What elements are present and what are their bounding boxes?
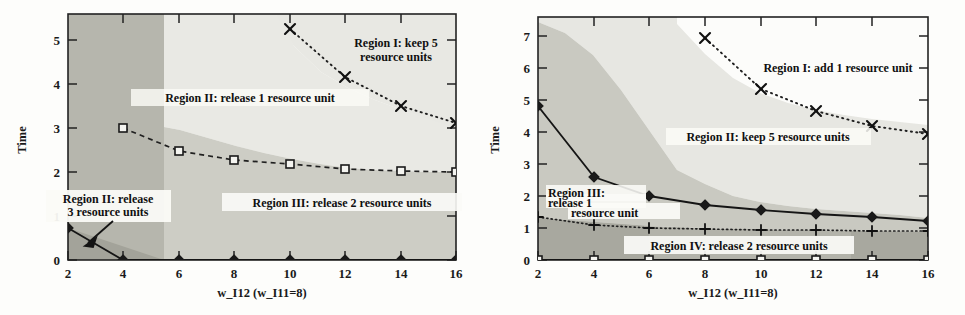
- x-tick-label: 16: [922, 266, 936, 281]
- y-tick-label: 5: [524, 93, 531, 108]
- y-tick-label: 4: [54, 77, 61, 92]
- region-2-label-line-1: Region II: keep 5 resource units: [686, 130, 850, 144]
- region-2b-label-line-1: Region II: release: [63, 192, 154, 206]
- region-2b-label-left: Region II: release 3 resource units: [46, 190, 171, 222]
- region-3-label-line-1: Region III: release 2 resource units: [253, 196, 432, 210]
- region-2b-label-line-2: 3 resource units: [68, 205, 149, 219]
- region-2-label-right: Region II: keep 5 resource units: [666, 128, 871, 145]
- y-tick-label: 2: [54, 165, 61, 180]
- y-tick-label: 1: [524, 221, 531, 236]
- y-tick-label: 3: [524, 157, 531, 172]
- figure-page: 0 1 2 3 4 5 2 4 6 8 10 12: [0, 0, 965, 315]
- region-4-label-right: Region IV: release 2 resource units: [624, 236, 854, 254]
- x-axis-title-right: w_I12 (w_I11=8): [688, 286, 777, 300]
- region-4-label-line-1: Region IV: release 2 resource units: [650, 239, 828, 253]
- x-tick-label: 16: [450, 266, 464, 281]
- x-tick-label: 12: [339, 266, 352, 281]
- y-tick-label: 6: [524, 61, 531, 76]
- region-2-label-line-1: Region II: release 1 resource unit: [165, 91, 335, 105]
- y-axis-title-right: Time: [488, 126, 502, 154]
- x-tick-label: 10: [284, 266, 297, 281]
- x-tick-label: 14: [395, 266, 409, 281]
- x-tick-label: 4: [120, 266, 127, 281]
- region-1-label-right: Region I: add 1 resource unit: [763, 61, 912, 75]
- y-tick-label: 0: [524, 253, 531, 268]
- y-tick-label: 0: [54, 253, 61, 268]
- x-tick-label: 8: [702, 266, 709, 281]
- x-tick-label: 12: [810, 266, 823, 281]
- x-tick-label: 4: [591, 266, 598, 281]
- chart-panel-left: 0 1 2 3 4 5 2 4 6 8 10 12: [0, 0, 483, 315]
- region-3-label-left: Region III: release 2 resource units: [222, 193, 462, 211]
- chart-panel-right: 0 1 2 3 4 5 6 7 2 4 6: [483, 0, 965, 315]
- x-tick-label: 8: [231, 266, 238, 281]
- y-tick-label: 2: [524, 189, 531, 204]
- chart-svg-left: 0 1 2 3 4 5 2 4 6 8 10 12: [0, 0, 483, 315]
- y-tick-label: 7: [524, 29, 531, 44]
- region-3-label-line-3: resource unit: [571, 206, 638, 220]
- region-2b-fill: [68, 14, 164, 260]
- region-1-label-line-2: resource units: [360, 50, 432, 64]
- region-1-label-left: Region I: keep 5 resource units: [354, 36, 438, 64]
- x-axis-title-left: w_I12 (w_I11=8): [217, 286, 306, 300]
- chart-svg-right: 0 1 2 3 4 5 6 7 2 4 6: [483, 0, 965, 315]
- region-1-label-line-1: Region I: add 1 resource unit: [763, 61, 912, 75]
- y-tick-label: 4: [524, 125, 531, 140]
- x-tick-label: 10: [755, 266, 768, 281]
- region-2-label-left: Region II: release 1 resource unit: [131, 89, 369, 106]
- y-tick-label: 5: [54, 33, 61, 48]
- x-tick-label: 2: [65, 266, 72, 281]
- x-tick-label: 6: [646, 266, 653, 281]
- region-4-dark-right: [851, 231, 928, 260]
- x-tick-label: 2: [535, 266, 542, 281]
- y-axis-title-left: Time: [15, 126, 29, 154]
- region-1-label-line-1: Region I: keep 5: [354, 36, 438, 50]
- x-tick-label: 6: [176, 266, 183, 281]
- y-tick-label: 3: [54, 121, 61, 136]
- x-tick-label: 14: [866, 266, 880, 281]
